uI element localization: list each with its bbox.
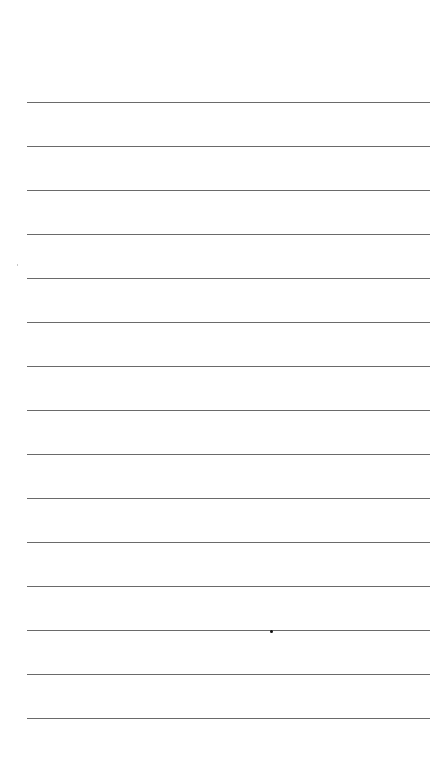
ruled-line [27, 146, 430, 147]
ruled-line [27, 102, 430, 103]
paper-speck [17, 264, 18, 266]
ruled-line [27, 410, 430, 411]
ruled-line [27, 278, 430, 279]
ruled-line [27, 234, 430, 235]
ruled-line [27, 322, 430, 323]
ruled-line [27, 718, 430, 719]
ruled-line [27, 586, 430, 587]
ruled-line [27, 190, 430, 191]
ruled-line [27, 366, 430, 367]
ink-dot [270, 630, 273, 633]
ruled-line [27, 542, 430, 543]
ruled-line [27, 630, 430, 631]
ruled-line [27, 454, 430, 455]
lined-paper-page [0, 0, 447, 779]
ruled-line [27, 674, 430, 675]
ruled-line [27, 498, 430, 499]
